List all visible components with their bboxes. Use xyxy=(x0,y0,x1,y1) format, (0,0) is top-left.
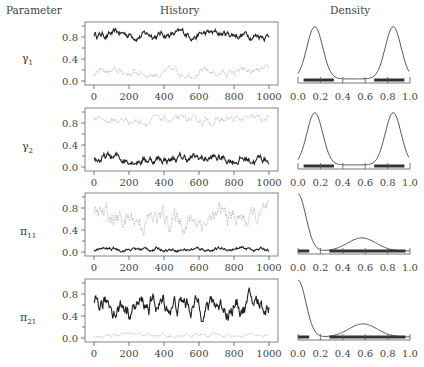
svg-text:0.8: 0.8 xyxy=(62,32,78,43)
density-panel-1: 0.00.20.40.60.81.0 xyxy=(290,113,418,188)
svg-text:1000: 1000 xyxy=(256,177,281,188)
svg-text:200: 200 xyxy=(119,348,138,359)
svg-text:0: 0 xyxy=(91,177,97,188)
history-panel-0: 0.00.40.802004006008001000 xyxy=(62,22,282,102)
history-panel-2: 0.00.40.802004006008001000 xyxy=(62,193,282,273)
svg-text:0.0: 0.0 xyxy=(62,247,78,258)
density-panel-2: 0.00.20.40.60.81.0 xyxy=(290,194,418,273)
svg-text:600: 600 xyxy=(189,348,208,359)
svg-text:0.2: 0.2 xyxy=(312,348,328,359)
svg-text:0: 0 xyxy=(91,91,97,102)
svg-text:400: 400 xyxy=(154,91,173,102)
svg-text:0.8: 0.8 xyxy=(380,348,396,359)
svg-text:0.6: 0.6 xyxy=(357,262,373,273)
svg-text:0.4: 0.4 xyxy=(62,311,78,322)
svg-text:600: 600 xyxy=(189,91,208,102)
svg-text:0.4: 0.4 xyxy=(62,225,78,236)
svg-text:400: 400 xyxy=(154,348,173,359)
svg-text:0.8: 0.8 xyxy=(380,177,396,188)
density-panel-0: 0.00.20.40.60.81.0 xyxy=(290,27,418,102)
svg-text:600: 600 xyxy=(189,262,208,273)
svg-text:0.6: 0.6 xyxy=(357,177,373,188)
svg-text:0.0: 0.0 xyxy=(290,91,306,102)
svg-text:200: 200 xyxy=(119,91,138,102)
svg-text:0.2: 0.2 xyxy=(312,177,328,188)
svg-text:400: 400 xyxy=(154,177,173,188)
trace-density-figure: 0.00.40.8020040060080010000.00.40.802004… xyxy=(0,0,424,367)
svg-text:0: 0 xyxy=(91,262,97,273)
svg-text:200: 200 xyxy=(119,262,138,273)
svg-text:1.0: 1.0 xyxy=(402,177,418,188)
svg-text:0.0: 0.0 xyxy=(290,348,306,359)
svg-text:0: 0 xyxy=(91,348,97,359)
svg-text:1000: 1000 xyxy=(256,348,281,359)
svg-text:0.4: 0.4 xyxy=(335,91,351,102)
svg-text:0.8: 0.8 xyxy=(62,118,78,129)
svg-text:0.0: 0.0 xyxy=(290,177,306,188)
svg-text:0.4: 0.4 xyxy=(335,262,351,273)
svg-text:600: 600 xyxy=(189,177,208,188)
history-panel-1: 0.00.40.802004006008001000 xyxy=(62,108,282,188)
svg-text:0.6: 0.6 xyxy=(357,348,373,359)
svg-text:1.0: 1.0 xyxy=(402,262,418,273)
svg-text:0.4: 0.4 xyxy=(335,177,351,188)
svg-text:0.6: 0.6 xyxy=(357,91,373,102)
svg-text:0.2: 0.2 xyxy=(312,262,328,273)
svg-text:0.8: 0.8 xyxy=(62,203,78,214)
svg-text:0.4: 0.4 xyxy=(62,54,78,65)
svg-text:0.0: 0.0 xyxy=(62,76,78,87)
svg-text:0.8: 0.8 xyxy=(62,289,78,300)
svg-text:0.0: 0.0 xyxy=(62,162,78,173)
svg-text:0.4: 0.4 xyxy=(335,348,351,359)
svg-text:0.2: 0.2 xyxy=(312,91,328,102)
svg-text:800: 800 xyxy=(224,262,243,273)
svg-text:200: 200 xyxy=(119,177,138,188)
svg-text:0.8: 0.8 xyxy=(380,91,396,102)
svg-text:0.4: 0.4 xyxy=(62,140,78,151)
svg-text:1.0: 1.0 xyxy=(402,91,418,102)
svg-text:1000: 1000 xyxy=(256,91,281,102)
svg-text:0.8: 0.8 xyxy=(380,262,396,273)
svg-text:0.0: 0.0 xyxy=(62,333,78,344)
svg-text:800: 800 xyxy=(224,177,243,188)
svg-text:800: 800 xyxy=(224,348,243,359)
svg-text:800: 800 xyxy=(224,91,243,102)
svg-text:400: 400 xyxy=(154,262,173,273)
svg-text:1000: 1000 xyxy=(256,262,281,273)
density-panel-3: 0.00.20.40.60.81.0 xyxy=(290,280,418,359)
svg-text:1.0: 1.0 xyxy=(402,348,418,359)
svg-text:0.0: 0.0 xyxy=(290,262,306,273)
history-panel-3: 0.00.40.802004006008001000 xyxy=(62,279,282,359)
